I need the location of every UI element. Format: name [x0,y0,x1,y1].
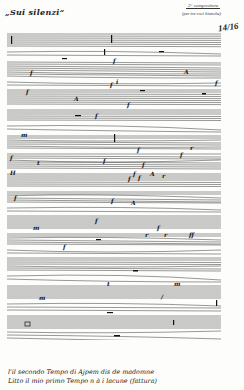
svg-text:ff: ff [188,231,195,239]
svg-text:H: H [9,169,16,176]
svg-text:m: m [33,224,39,231]
svg-text:r: r [145,231,149,238]
score-page: „Sui silenzi“ 2° compositore (per tre vo… [0,0,244,390]
score-title: „Sui silenzi“ [5,7,65,17]
handwritten-footer-note: l'il secondo Tempo di Ajpem dis de madom… [8,368,240,386]
svg-text:m: m [39,294,45,301]
svg-text:A: A [73,95,79,102]
svg-text:f: f [112,57,117,65]
svg-text:f: f [179,151,184,159]
svg-text:f: f [109,81,114,89]
svg-text:m: m [174,280,180,287]
svg-text:m: m [21,131,27,138]
header-annotation-line1: 2° compositore [186,3,220,9]
header-annotation-line2: (per tre voci bianche) [182,11,221,16]
footer-line-2: Litto il mio primo Tempo n à i lacune (f… [8,377,240,386]
svg-text:t: t [37,159,40,166]
svg-text:f: f [141,161,146,169]
svg-text:r: r [164,231,168,238]
staff-systems: f f A f i f f A f f m f r f f t f [7,30,221,340]
staff-lines-graphic: f f A f i f f A f f m f r f f t f [7,30,221,340]
svg-text:t: t [107,280,110,287]
svg-text:A: A [183,68,189,75]
svg-text:A: A [149,170,155,177]
footer-line-1: l'il secondo Tempo di Ajpem dis de madom… [8,368,240,377]
svg-text:A: A [130,199,136,206]
